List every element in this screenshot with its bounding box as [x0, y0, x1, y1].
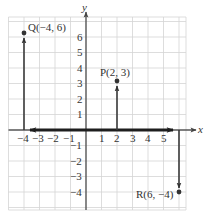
- y-tick-label: −1: [70, 139, 82, 151]
- y-tick-label: −2: [70, 155, 82, 167]
- x-tick-label: 1: [99, 132, 105, 144]
- y-axis-label: y: [81, 1, 87, 13]
- y-tick-label: 4: [77, 62, 83, 74]
- y-tick-label: 1: [77, 108, 83, 120]
- point-q-label: Q(−4, 6): [28, 21, 66, 34]
- x-tick-label: −4: [17, 132, 29, 144]
- y-tick-labels: 1 2 3 4 5 6 −1 −2 −3 −4: [70, 31, 83, 198]
- coordinate-plane: x y −4 −3 −2 −1 1 2 3 4 5 1 2 3 4 5 6 −1…: [0, 0, 204, 218]
- x-axis-label: x: [197, 123, 203, 135]
- x-tick-label: −2: [47, 132, 59, 144]
- x-tick-label: 5: [161, 132, 167, 144]
- x-tick-label: 2: [114, 132, 120, 144]
- point-r: [177, 190, 182, 195]
- grid: [9, 17, 187, 210]
- point-q: [22, 31, 27, 36]
- y-tick-label: 2: [77, 93, 83, 105]
- x-tick-label: −3: [32, 132, 44, 144]
- y-tick-label: 6: [77, 31, 83, 43]
- x-tick-label: 3: [130, 132, 136, 144]
- y-tick-label: 3: [77, 77, 83, 89]
- point-r-label: R(6, −4): [136, 188, 174, 201]
- x-tick-labels: −4 −3 −2 −1 1 2 3 4 5: [17, 132, 167, 144]
- x-tick-label: 4: [145, 132, 151, 144]
- y-tick-label: −4: [70, 186, 82, 198]
- point-p: [115, 79, 120, 84]
- point-p-label: P(2, 3): [100, 66, 130, 79]
- y-tick-label: −3: [70, 170, 82, 182]
- y-tick-label: 5: [77, 46, 83, 58]
